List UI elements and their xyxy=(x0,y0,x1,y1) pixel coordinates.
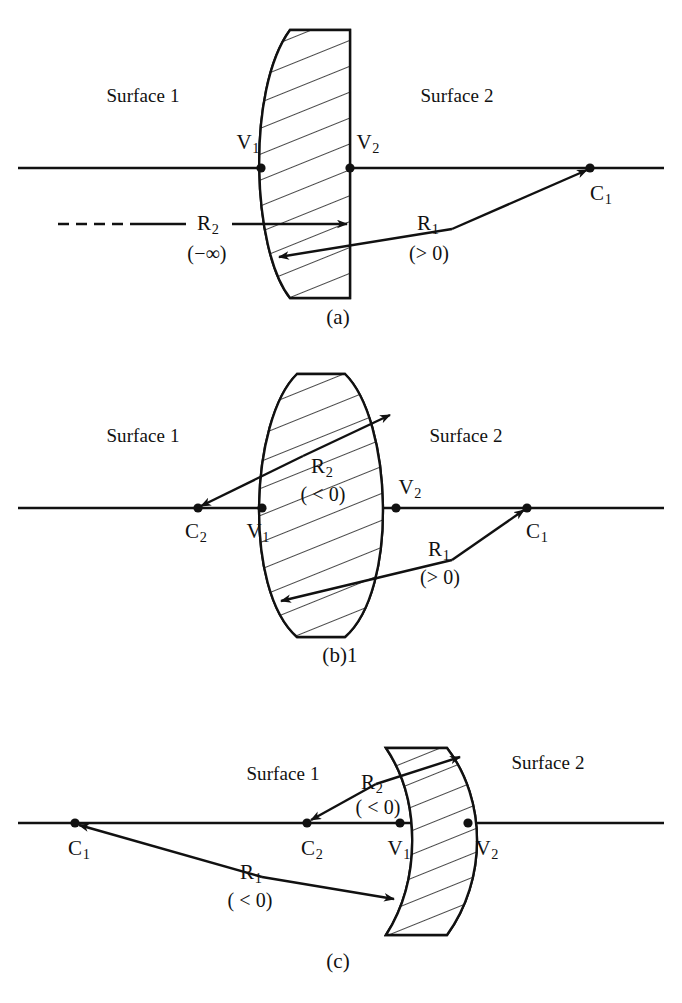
panel-a-r2-subscript: 2 xyxy=(211,221,219,237)
panel-b-c1-subscript: 1 xyxy=(540,529,548,545)
panel-c-r2-text: R xyxy=(361,770,375,794)
panel-c-r1-subscript: 1 xyxy=(254,870,262,886)
panel-b-v1-text: V xyxy=(247,519,262,543)
panel-c-v2-subscript: 2 xyxy=(491,846,499,862)
panel-c-c2-subscript: 2 xyxy=(315,846,323,862)
point-v1-c xyxy=(395,818,404,827)
panel-a-c1-subscript: 1 xyxy=(604,191,612,207)
panel-b-c2-text: C xyxy=(185,519,199,543)
panel-b-r2-subscript: 2 xyxy=(325,464,333,480)
point-v2-b xyxy=(391,503,400,512)
panel-b-c1-text: C xyxy=(526,519,540,543)
panel-b-c2-label: C2 xyxy=(185,521,207,544)
panel-c-caption: (c) xyxy=(326,951,350,972)
point-c1-c xyxy=(70,818,79,827)
r1-vector-to-surface1-c xyxy=(262,877,394,899)
panel-a-v1-text: V xyxy=(237,130,252,154)
point-v1-b xyxy=(257,503,266,512)
panel-b-r2-text: R xyxy=(311,454,325,478)
panel-a-r1-text: R xyxy=(417,211,431,235)
r1-vector-to-c1-c xyxy=(79,825,262,877)
panel-b-graphics xyxy=(18,365,664,650)
panel-b-v2-label: V2 xyxy=(399,477,422,500)
panel-a-v2-text: V xyxy=(357,130,372,154)
panel-b-r1-sign: (> 0) xyxy=(420,567,460,587)
panel-c-c2-label: C2 xyxy=(301,838,323,861)
point-c1-a xyxy=(585,163,594,172)
r1-vector-to-c1-b xyxy=(452,510,524,560)
panel-c-v2-label: V2 xyxy=(476,838,499,861)
point-v2-c xyxy=(463,818,472,827)
panel-a-surface1-label: Surface 1 xyxy=(106,86,179,105)
panel-a-c1-text: C xyxy=(590,181,604,205)
panel-a-r2-text: R xyxy=(197,211,211,235)
panel-c-surface1-label: Surface 1 xyxy=(246,764,319,783)
optics-figure: Surface 1 Surface 2 V1 V2 C1 R2 (−∞) R1 … xyxy=(0,0,682,1003)
panel-b-v1-label: V1 xyxy=(247,521,270,544)
panel-a-r1-label: R1 xyxy=(417,213,439,236)
panel-a-r2-sign: (−∞) xyxy=(187,243,226,263)
panel-a-caption: (a) xyxy=(326,307,350,328)
panel-b-r1-label: R1 xyxy=(428,539,450,562)
panel-a-v1-label: V1 xyxy=(237,132,260,155)
panel-b-surface2-label: Surface 2 xyxy=(429,426,502,445)
panel-c-r2-subscript: 2 xyxy=(375,780,383,796)
panel-c-r1-label: R1 xyxy=(240,862,262,885)
panel-b-v2-text: V xyxy=(399,475,414,499)
panel-b-c1-label: C1 xyxy=(526,521,548,544)
panel-b-caption: (b)1 xyxy=(322,645,357,666)
panel-a-r2-label: R2 xyxy=(197,213,219,236)
point-v1-a xyxy=(256,163,265,172)
panel-b-c2-subscript: 2 xyxy=(199,529,207,545)
point-v2-a xyxy=(345,163,354,172)
panel-b-r2-sign: ( < 0) xyxy=(300,484,345,504)
panel-c-c1-subscript: 1 xyxy=(82,846,90,862)
panel-b-r1-subscript: 1 xyxy=(442,547,450,563)
panel-c-r1-text: R xyxy=(240,860,254,884)
panel-c-c2-text: C xyxy=(301,836,315,860)
panel-a-c1-label: C1 xyxy=(590,183,612,206)
panel-a-r1-subscript: 1 xyxy=(431,221,439,237)
panel-c-c1-label: C1 xyxy=(68,838,90,861)
panel-a-v2-label: V2 xyxy=(357,132,380,155)
panel-a-v2-subscript: 2 xyxy=(372,140,380,156)
panel-b-v2-subscript: 2 xyxy=(414,485,422,501)
panel-b-surface1-label: Surface 1 xyxy=(106,426,179,445)
panel-a-surface2-label: Surface 2 xyxy=(420,86,493,105)
r1-vector-to-c1-a xyxy=(452,170,587,229)
panel-c-surface2-label: Surface 2 xyxy=(511,753,584,772)
panel-a-r1-sign: (> 0) xyxy=(409,243,449,263)
panel-b-v1-subscript: 1 xyxy=(262,529,270,545)
panel-c-v1-subscript: 1 xyxy=(403,846,411,862)
panel-c-v1-label: V1 xyxy=(388,838,411,861)
panel-c-r2-label: R2 xyxy=(361,772,383,795)
panel-c-c1-text: C xyxy=(68,836,82,860)
point-c1-b xyxy=(522,503,531,512)
panel-b-r2-label: R2 xyxy=(311,456,333,479)
panel-c-r2-sign: ( < 0) xyxy=(355,797,400,817)
panel-a-graphics xyxy=(18,20,664,310)
panel-c-r1-sign: ( < 0) xyxy=(227,890,272,910)
panel-c-v1-text: V xyxy=(388,836,403,860)
panel-a-v1-subscript: 1 xyxy=(252,140,260,156)
panel-b-r1-text: R xyxy=(428,537,442,561)
panel-c-v2-text: V xyxy=(476,836,491,860)
point-c2-c xyxy=(302,818,311,827)
point-c2-b xyxy=(193,503,202,512)
